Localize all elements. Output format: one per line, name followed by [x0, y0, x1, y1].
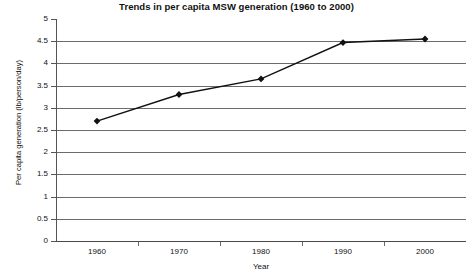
y-axis-tick-label: 2: [8, 148, 48, 156]
x-axis-tick-label: 2000: [395, 247, 455, 256]
x-axis-tick-label: 1970: [149, 247, 209, 256]
x-axis-tick: [220, 242, 221, 246]
y-axis-spine: [56, 19, 57, 242]
gridline: [56, 86, 466, 87]
y-axis-tick-label: 1.5: [8, 170, 48, 178]
y-axis-tick: [51, 63, 56, 64]
y-axis-tick-label: 5: [8, 15, 48, 23]
gridline: [56, 130, 466, 131]
gridline: [56, 219, 466, 220]
y-axis-tick-label: 0.5: [8, 215, 48, 223]
y-axis-tick-label: 2.5: [8, 126, 48, 134]
gridline: [56, 197, 466, 198]
y-axis-tick: [51, 108, 56, 109]
y-axis-tick-label: 3.5: [8, 82, 48, 90]
y-axis-tick-label: 1: [8, 193, 48, 201]
y-axis-tick: [51, 174, 56, 175]
x-axis-tick-label: 1960: [67, 247, 127, 256]
x-axis-line: [56, 241, 466, 242]
y-axis-tick: [51, 86, 56, 87]
x-axis-tick-label: 1980: [231, 247, 291, 256]
x-axis-tick: [138, 242, 139, 246]
chart-title: Trends in per capita MSW generation (196…: [0, 1, 473, 12]
chart-figure: Trends in per capita MSW generation (196…: [0, 0, 473, 278]
y-axis-tick: [51, 19, 56, 20]
gridline: [56, 174, 466, 175]
gridline: [56, 108, 466, 109]
gridline: [56, 152, 466, 153]
plot-area: [56, 19, 466, 241]
gridline: [56, 41, 466, 42]
x-axis-tick: [384, 242, 385, 246]
y-axis-tick: [51, 41, 56, 42]
y-axis-tick: [51, 152, 56, 153]
y-axis-tick: [51, 241, 56, 242]
y-axis-tick-label: 4.5: [8, 37, 48, 45]
x-axis-title: Year: [56, 262, 466, 271]
gridline: [56, 63, 466, 64]
y-axis-tick: [51, 130, 56, 131]
y-axis-tick-label: 0: [8, 237, 48, 245]
y-axis-tick-label: 3: [8, 104, 48, 112]
y-axis-tick: [51, 197, 56, 198]
x-axis-tick: [302, 242, 303, 246]
y-axis-tick-label: 4: [8, 59, 48, 67]
x-axis-tick-label: 1990: [313, 247, 373, 256]
y-axis-tick: [51, 219, 56, 220]
